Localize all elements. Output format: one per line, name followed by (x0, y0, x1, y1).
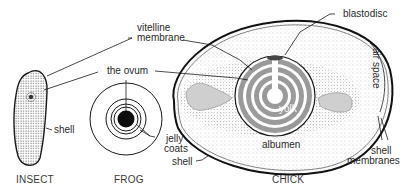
label-shell-membranes-line2: membranes (347, 156, 400, 166)
caption-frog: FROG (114, 174, 144, 185)
label-shell-insect: shell (54, 125, 75, 135)
label-blastodisc: blastodisc (343, 9, 387, 19)
label-yolk: yolk (279, 104, 297, 114)
insect-egg (14, 71, 47, 166)
label-the-ovum: the ovum (107, 66, 148, 76)
label-shell-chick: shell (172, 157, 193, 167)
label-albumen: albumen (262, 140, 300, 150)
egg-comparison-diagram: vitelline membrane the ovum blastodisc a… (0, 0, 407, 190)
label-vitelline-membrane-line2: membrane (137, 33, 185, 43)
label-air-space: air space (371, 48, 381, 89)
caption-chick: CHICK (272, 174, 304, 185)
label-jelly-coats-line2: coats (164, 144, 188, 154)
diagram-canvas (0, 0, 407, 190)
caption-insect: INSECT (16, 174, 54, 185)
